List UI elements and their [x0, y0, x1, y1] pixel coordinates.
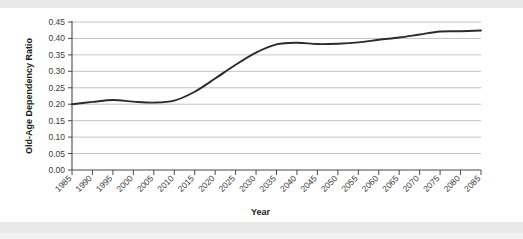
x-tick-label: 2065	[380, 173, 401, 194]
y-axis-title: Old-Age Dependency Ratio	[24, 37, 34, 154]
y-tick-label: 0.30	[48, 66, 65, 76]
y-tick-labels-group: 0.000.050.100.150.200.250.300.350.400.45	[48, 17, 72, 175]
x-tick-label: 2000	[114, 173, 135, 194]
y-tick-label: 0.00	[48, 165, 65, 175]
x-tick-label: 1995	[94, 173, 115, 194]
x-tick-label: 2080	[442, 173, 463, 194]
x-tick-label: 2050	[319, 173, 340, 194]
x-tick-label: 2055	[339, 173, 360, 194]
x-tick-label: 2015	[176, 173, 197, 194]
data-line-old-age-dependency-ratio	[72, 31, 481, 105]
y-tick-label: 0.25	[48, 83, 65, 93]
x-tick-label: 2005	[135, 173, 156, 194]
y-tick-label: 0.45	[48, 17, 65, 27]
x-tick-marks-group	[72, 170, 481, 175]
x-tick-label: 2045	[298, 173, 319, 194]
x-tick-label: 1985	[53, 173, 74, 194]
x-tick-label: 2025	[217, 173, 238, 194]
data-series-group	[72, 31, 481, 105]
x-tick-label: 2010	[155, 173, 176, 194]
x-tick-label: 2030	[237, 173, 258, 194]
x-tick-labels-group: 1985199019952000200520102015202020252030…	[53, 173, 483, 194]
y-tick-label: 0.40	[48, 33, 65, 43]
y-tick-label: 0.15	[48, 116, 65, 126]
y-tick-label: 0.10	[48, 132, 65, 142]
axes-group	[72, 21, 481, 170]
line-chart: 0.000.050.100.150.200.250.300.350.400.45…	[0, 0, 523, 239]
y-tick-label: 0.20	[48, 99, 65, 109]
x-tick-label: 2085	[462, 173, 483, 194]
x-tick-label: 1990	[73, 173, 94, 194]
y-tick-label: 0.05	[48, 149, 65, 159]
x-tick-label: 2060	[360, 173, 381, 194]
chart-figure: 0.000.050.100.150.200.250.300.350.400.45…	[0, 0, 523, 239]
x-tick-label: 2035	[257, 173, 278, 194]
x-tick-label: 2040	[278, 173, 299, 194]
x-axis-title: Year	[251, 207, 271, 217]
x-tick-label: 2020	[196, 173, 217, 194]
x-tick-label: 2075	[421, 173, 442, 194]
x-tick-label: 2070	[401, 173, 422, 194]
y-tick-label: 0.35	[48, 50, 65, 60]
gridlines-group	[72, 22, 481, 154]
